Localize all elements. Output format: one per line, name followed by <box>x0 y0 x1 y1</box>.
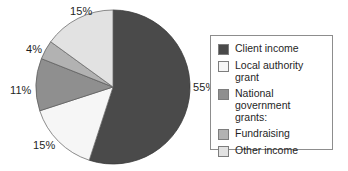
legend-item-client-income[interactable]: Client income <box>218 42 328 55</box>
legend-item-local-authority-grant[interactable]: Local authority grant <box>218 59 328 83</box>
pie-label-local-authority-grant: 15% <box>33 139 55 151</box>
chart-legend: Client income Local authority grant Nati… <box>210 35 333 150</box>
legend-item-national-government-grants[interactable]: National government grants: <box>218 87 328 123</box>
legend-swatch-icon-other-income <box>218 146 229 157</box>
legend-swatch-icon-local-authority-grant <box>218 61 229 72</box>
legend-item-other-income[interactable]: Other income <box>218 144 328 157</box>
legend-label-fundraising: Fundraising <box>235 127 290 139</box>
legend-label-other-income: Other income <box>235 144 298 156</box>
legend-label-client-income: Client income <box>235 42 299 54</box>
legend-swatch-icon-national-government-grants <box>218 89 229 100</box>
legend-item-fundraising[interactable]: Fundraising <box>218 127 328 140</box>
pie-label-national-government-grants: 11% <box>10 84 32 96</box>
legend-row-list: Client income Local authority grant Nati… <box>218 42 328 157</box>
legend-swatch-icon-fundraising <box>218 129 229 140</box>
pie-label-fundraising: 4% <box>26 43 42 55</box>
pie-chart-figure: 55% 15% 11% 4% 15% Client income Local a… <box>0 0 348 171</box>
legend-swatch-icon-client-income <box>218 44 229 55</box>
pie-label-other-income: 15% <box>70 5 92 17</box>
legend-label-national-government-grants: National government grants: <box>235 87 328 123</box>
legend-label-local-authority-grant: Local authority grant <box>235 59 328 83</box>
